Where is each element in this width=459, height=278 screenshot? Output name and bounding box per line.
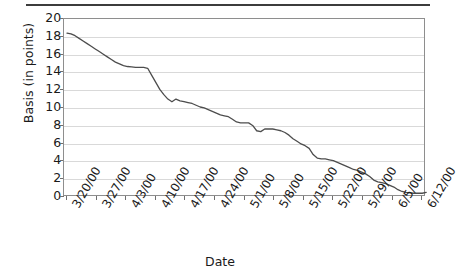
y-axis-tick-label: 12 xyxy=(35,83,61,96)
x-axis-tick-mark xyxy=(244,196,245,200)
y-axis-tick-label: 20 xyxy=(35,12,61,25)
y-axis-tick-label: 0 xyxy=(35,190,61,203)
x-axis-tick-mark xyxy=(125,196,126,200)
x-axis-tick-mark xyxy=(155,196,156,200)
x-axis-tick-mark xyxy=(96,196,97,200)
x-axis-tick-mark xyxy=(392,196,393,200)
x-axis-tick-mark xyxy=(184,196,185,200)
y-axis-tick-label: 2 xyxy=(35,172,61,185)
y-axis-tick-label: 18 xyxy=(35,30,61,43)
top-divider-rule xyxy=(26,4,430,6)
y-axis-tick-label: 14 xyxy=(35,65,61,78)
y-axis-tick-label: 8 xyxy=(35,119,61,132)
x-axis-tick-label: 6/12/00 xyxy=(425,165,458,210)
x-axis-tick-mark xyxy=(421,196,422,200)
x-axis-tick-mark xyxy=(214,196,215,200)
x-axis-tick-mark xyxy=(273,196,274,200)
y-axis-tick-label: 16 xyxy=(35,48,61,61)
y-axis-tick-label: 10 xyxy=(35,101,61,114)
x-axis-tick-mark xyxy=(66,196,67,200)
x-axis-tick-mark xyxy=(362,196,363,200)
y-axis-tick-label: 4 xyxy=(35,154,61,167)
y-axis-ticks: 20181614121086420 xyxy=(28,18,61,196)
x-axis-tick-mark xyxy=(303,196,304,200)
x-axis-tick-mark xyxy=(332,196,333,200)
x-axis-title: Date xyxy=(0,255,440,269)
y-axis-tick-label: 6 xyxy=(35,137,61,150)
